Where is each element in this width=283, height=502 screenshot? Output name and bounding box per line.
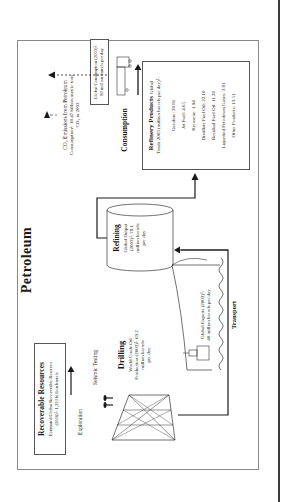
diagram-canvas: Petroleum Recoverable Resources Estimate… [17,40,259,470]
co2-arrows [17,40,259,470]
page-edge-rule [278,0,280,502]
